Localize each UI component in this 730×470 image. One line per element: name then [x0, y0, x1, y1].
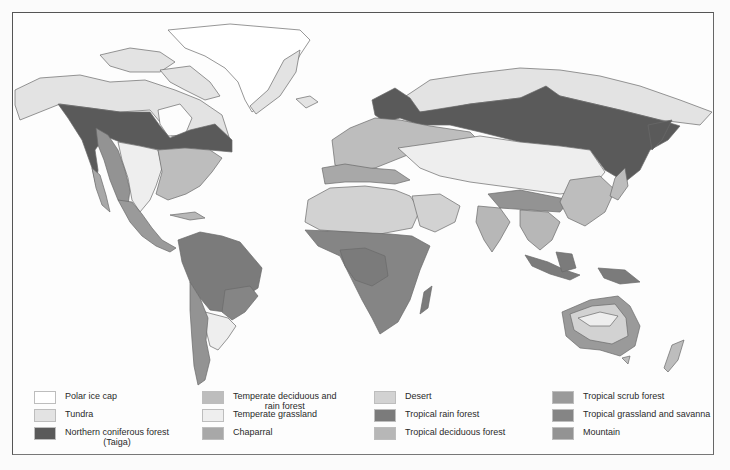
- legend-item-tundra: Tundra: [34, 409, 93, 422]
- legend-label: Tropical rain forest: [405, 409, 479, 419]
- legend-item-northern-coniferous-forest: Northern coniferous forest(Taiga): [34, 427, 169, 447]
- legend-label: Northern coniferous forest(Taiga): [65, 427, 169, 447]
- legend-label: Tropical scrub forest: [583, 391, 664, 401]
- region-arctic-islands: [100, 48, 175, 72]
- legend-swatch: [374, 427, 396, 440]
- legend-swatch: [374, 409, 396, 422]
- region-mexico: [118, 200, 176, 252]
- region-madagascar: [420, 286, 432, 314]
- region-caribbean: [170, 212, 205, 220]
- legend-swatch: [202, 409, 224, 422]
- region-new-guinea: [598, 268, 640, 284]
- legend-item-desert: Desert: [374, 391, 432, 404]
- legend-swatch: [202, 427, 224, 440]
- legend-label: Desert: [405, 391, 432, 401]
- legend-item-tropical-rain-forest: Tropical rain forest: [374, 409, 479, 422]
- legend-swatch: [34, 427, 56, 440]
- legend-item-polar-ice-cap: Polar ice cap: [34, 391, 117, 404]
- legend-label: Tropical deciduous forest: [405, 427, 505, 437]
- region-tasmania: [622, 356, 630, 364]
- region-arabia: [412, 194, 460, 232]
- region-new-zealand: [664, 340, 684, 372]
- legend-sublabel: (Taiga): [65, 437, 169, 447]
- legend-item-tropical-scrub-forest: Tropical scrub forest: [552, 391, 664, 404]
- region-southeast-asia: [520, 210, 560, 250]
- legend-item-mountain: Mountain: [552, 427, 620, 440]
- region-west-coast: [92, 168, 110, 212]
- legend-label: Chaparral: [233, 427, 273, 437]
- region-sahara: [305, 186, 420, 234]
- legend-item-tropical-grassland-and-savanna: Tropical grassland and savanna: [552, 409, 710, 422]
- region-brazil-savanna: [222, 286, 258, 320]
- legend-item-temperate-deciduous-and-rain-forest: Temperate deciduous andrain forest: [202, 391, 337, 411]
- region-east-asia: [560, 176, 615, 226]
- legend-swatch: [552, 409, 574, 422]
- legend-swatch: [374, 391, 396, 404]
- legend-label: Temperate grassland: [233, 409, 317, 419]
- legend-swatch: [34, 409, 56, 422]
- legend-swatch: [34, 391, 56, 404]
- legend-item-tropical-deciduous-forest: Tropical deciduous forest: [374, 427, 505, 440]
- legend: Polar ice capTundraNorthern coniferous f…: [12, 385, 714, 455]
- legend-label: Polar ice cap: [65, 391, 117, 401]
- legend-item-chaparral: Chaparral: [202, 427, 273, 440]
- legend-swatch: [202, 391, 224, 404]
- legend-item-temperate-grassland: Temperate grassland: [202, 409, 317, 422]
- region-india: [476, 206, 510, 252]
- region-iceland: [296, 96, 318, 108]
- legend-label: Mountain: [583, 427, 620, 437]
- legend-swatch: [552, 427, 574, 440]
- legend-label: Tropical grassland and savanna: [583, 409, 710, 419]
- legend-label: Temperate deciduous andrain forest: [233, 391, 337, 411]
- legend-label: Tundra: [65, 409, 93, 419]
- legend-swatch: [552, 391, 574, 404]
- region-eastern-us: [156, 148, 222, 200]
